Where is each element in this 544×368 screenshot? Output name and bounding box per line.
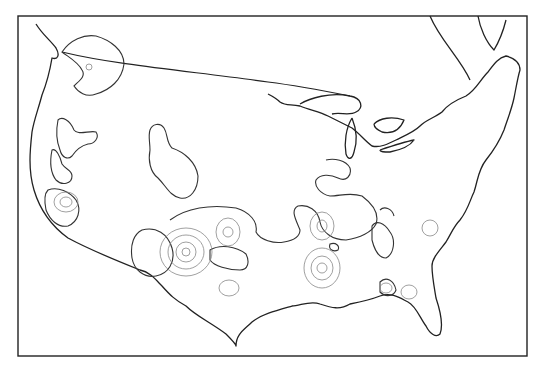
northeast-land — [478, 16, 506, 50]
contour-regions — [45, 36, 396, 296]
us-outline — [30, 24, 520, 346]
northeast-coast — [430, 16, 470, 80]
great-lakes — [300, 95, 414, 159]
canada-border — [62, 52, 350, 96]
us-contour-map — [0, 0, 544, 368]
map-frame — [18, 16, 527, 356]
concentric-contours — [54, 64, 438, 299]
